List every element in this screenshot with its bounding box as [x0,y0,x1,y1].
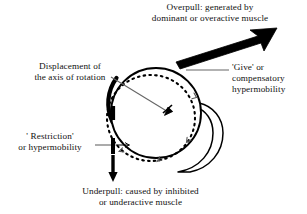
label-displacement: Displacement of the axis of rotation [18,61,122,83]
restriction-bar-upper [112,106,116,120]
restriction-bar-marker [111,138,115,154]
label-restriction: ' Restriction' or hypermobility [4,131,96,153]
label-overpull: Overpull: generated by dominant or overa… [120,2,300,24]
label-give: 'Give' or compensatory hypermobility [232,62,306,96]
diagram-canvas [0,0,307,214]
underpull-arrow [108,155,117,182]
label-underpull: Underpull: caused by inhibited or undera… [48,186,233,208]
